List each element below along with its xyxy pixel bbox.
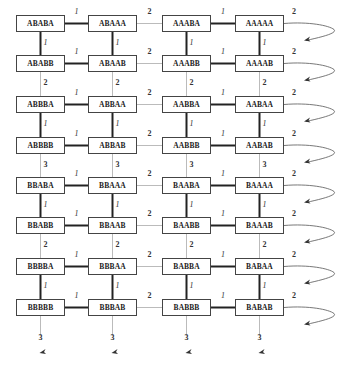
state-node: BABAA <box>235 258 284 275</box>
edge-label: 1 <box>75 170 79 178</box>
edge-label: 2 <box>148 8 152 16</box>
edge-label: 2 <box>292 251 296 259</box>
state-node: BBBBA <box>16 258 65 275</box>
edge-label: 2 <box>263 241 267 249</box>
state-node: BAAAA <box>235 177 284 194</box>
edge-label: 1 <box>75 130 79 138</box>
edge-label: 1 <box>75 8 79 16</box>
edge-label: 2 <box>292 48 296 56</box>
edge-label: 2 <box>148 210 152 218</box>
state-node: BBBBB <box>16 299 65 316</box>
edge-label: 3 <box>44 161 48 169</box>
edge-label: 1 <box>190 201 194 209</box>
edge-label: 3 <box>190 161 194 169</box>
state-node: AABAA <box>235 96 284 113</box>
arrowhead-icon <box>112 349 119 354</box>
arrowhead-icon <box>304 280 311 285</box>
arrowhead-icon <box>304 199 311 204</box>
edge-label: 2 <box>44 79 48 87</box>
edge-label: 2 <box>116 79 120 87</box>
edge-label: 2 <box>292 170 296 178</box>
state-node: ABBAB <box>88 137 137 154</box>
edge-label: 2 <box>263 79 267 87</box>
state-node: AABBB <box>162 137 211 154</box>
state-node: BBAAA <box>88 177 137 194</box>
edge-label: 1 <box>75 210 79 218</box>
state-node: ABBAA <box>88 96 137 113</box>
edge-label: 3 <box>39 334 43 342</box>
edge-label: 1 <box>221 130 225 138</box>
edge-label: 1 <box>221 48 225 56</box>
edge-label: 2 <box>44 241 48 249</box>
arrowhead-icon <box>304 118 311 123</box>
edge-label: 1 <box>221 292 225 300</box>
arrowhead-icon <box>304 321 311 326</box>
edge-label: 2 <box>292 8 296 16</box>
state-node: BBBAB <box>88 299 137 316</box>
state-node: ABAAB <box>88 55 137 72</box>
state-node: AABAB <box>235 137 284 154</box>
arrowhead-icon <box>304 159 311 164</box>
state-node: BBABB <box>16 217 65 234</box>
arrowhead-icon <box>304 77 311 82</box>
edge-label: 1 <box>263 120 267 128</box>
edge-label: 2 <box>148 170 152 178</box>
edge-label: 3 <box>258 334 262 342</box>
state-node: ABAAA <box>88 15 137 32</box>
edge-label: 2 <box>292 89 296 97</box>
edge-label: 1 <box>263 282 267 290</box>
state-node: AAABB <box>162 55 211 72</box>
state-node: BABBB <box>162 299 211 316</box>
state-node: ABABA <box>16 15 65 32</box>
state-node: AABBA <box>162 96 211 113</box>
edge-label: 1 <box>190 120 194 128</box>
edge-label: 1 <box>75 89 79 97</box>
edge-label: 1 <box>75 48 79 56</box>
edge-label: 1 <box>44 201 48 209</box>
arrowhead-icon <box>304 239 311 244</box>
edge-label: 1 <box>116 39 120 47</box>
arrowhead-icon <box>40 349 47 354</box>
edge-label: 1 <box>221 210 225 218</box>
edge-label: 1 <box>221 251 225 259</box>
edge-label: 3 <box>116 161 120 169</box>
state-node: AAAAA <box>235 15 284 32</box>
state-node: ABABB <box>16 55 65 72</box>
state-node: BAABA <box>162 177 211 194</box>
edge-label: 1 <box>116 120 120 128</box>
state-transition-diagram: ABABAABAAAAAABAAAAAAABABBABAABAAABBAAAAB… <box>0 0 349 371</box>
edge-label: 1 <box>44 39 48 47</box>
state-node: BAAAB <box>235 217 284 234</box>
edge-label: 2 <box>116 241 120 249</box>
state-node: BBBAA <box>88 258 137 275</box>
edge-label: 1 <box>75 251 79 259</box>
edge-label: 1 <box>116 201 120 209</box>
edge-label: 2 <box>292 210 296 218</box>
edge-label: 3 <box>185 334 189 342</box>
state-node: AAAAB <box>235 55 284 72</box>
edge-label: 1 <box>190 282 194 290</box>
state-node: BBABA <box>16 177 65 194</box>
edge-label: 1 <box>263 39 267 47</box>
state-node: BAABB <box>162 217 211 234</box>
arrowhead-icon <box>186 349 193 354</box>
edge-label: 1 <box>190 39 194 47</box>
state-node: BABBA <box>162 258 211 275</box>
edge-label: 2 <box>190 241 194 249</box>
edge-label: 2 <box>148 48 152 56</box>
state-node: AAABA <box>162 15 211 32</box>
arrowhead-icon <box>259 349 266 354</box>
edge-label: 2 <box>148 89 152 97</box>
edge-label: 1 <box>44 282 48 290</box>
edge-label: 2 <box>148 251 152 259</box>
edge-label: 3 <box>111 334 115 342</box>
edge-label: 2 <box>148 130 152 138</box>
edge-label: 1 <box>75 292 79 300</box>
edge-label: 1 <box>221 89 225 97</box>
edge-label: 1 <box>221 170 225 178</box>
edge-label: 2 <box>292 292 296 300</box>
edge-label: 1 <box>263 201 267 209</box>
edge-label: 1 <box>116 282 120 290</box>
arrowhead-icon <box>304 37 311 42</box>
state-node: ABBBA <box>16 96 65 113</box>
